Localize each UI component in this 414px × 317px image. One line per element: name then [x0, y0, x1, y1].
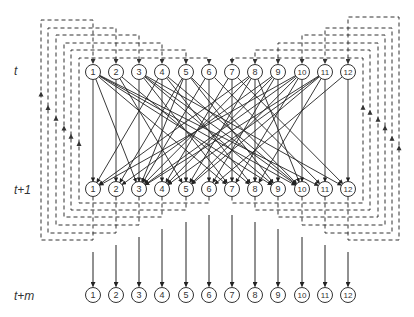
node-tm-6: 6: [202, 288, 217, 303]
up-arrow-icon: [397, 145, 402, 150]
edge-11-to-4: [168, 76, 319, 184]
node-t-8: 8: [248, 65, 263, 80]
node-tm-4: 4: [155, 288, 170, 303]
node-label: 6: [206, 67, 211, 77]
node-t-11: 11: [318, 65, 333, 80]
node-t1-8: 8: [248, 182, 263, 197]
node-label: 11: [321, 68, 330, 77]
feedback-loop-node-11: [325, 28, 392, 233]
node-label: 12: [344, 185, 353, 194]
edge-4-to-8: [167, 78, 251, 183]
edge-3-to-7: [144, 78, 228, 183]
node-t1-11: 11: [318, 182, 333, 197]
up-arrow-icon: [62, 126, 67, 131]
node-t-3: 3: [132, 65, 147, 80]
node-t1-2: 2: [109, 182, 124, 197]
node-label: 5: [183, 184, 188, 194]
up-arrow-icon: [383, 125, 388, 130]
node-label: 3: [136, 184, 141, 194]
transition-edges: [93, 75, 348, 185]
node-label: 8: [252, 290, 257, 300]
node-label: 3: [136, 67, 141, 77]
node-label: 8: [252, 184, 257, 194]
up-arrow-icon: [361, 105, 366, 110]
node-t1-6: 6: [202, 182, 217, 197]
up-arrow-icon: [376, 117, 381, 122]
node-label: 1: [90, 67, 95, 77]
node-tm-11: 11: [318, 288, 333, 303]
node-t-4: 4: [155, 65, 170, 80]
node-t1-7: 7: [225, 182, 240, 197]
node-label: 5: [183, 67, 188, 77]
node-t-5: 5: [179, 65, 194, 80]
node-label: 2: [113, 184, 118, 194]
node-t1-3: 3: [132, 182, 147, 197]
node-t-1: 1: [86, 65, 101, 80]
node-label: 10: [298, 68, 307, 77]
node-tm-12: 12: [341, 288, 356, 303]
node-t1-10: 10: [295, 182, 310, 197]
node-label: 6: [206, 184, 211, 194]
feedback-loop-node-3: [56, 35, 139, 225]
node-label: 4: [159, 67, 164, 77]
node-label: 12: [344, 291, 353, 300]
node-t1-5: 5: [179, 182, 194, 197]
up-arrow-icon: [54, 116, 59, 121]
node-t-9: 9: [271, 65, 286, 80]
node-tm-8: 8: [248, 288, 263, 303]
up-arrow-icon: [390, 136, 395, 141]
node-label: 3: [136, 290, 141, 300]
node-label: 5: [183, 290, 188, 300]
up-arrow-icon: [39, 92, 44, 97]
node-label: 12: [344, 68, 353, 77]
node-label: 4: [159, 184, 164, 194]
edge-11-to-5: [192, 77, 320, 184]
row-label-t: t: [14, 64, 17, 78]
node-label: 10: [298, 291, 307, 300]
up-arrow-icon: [77, 141, 82, 146]
feedback-loop-node-10: [302, 35, 385, 225]
up-arrow-icon: [368, 110, 373, 115]
node-label: 11: [321, 185, 330, 194]
node-label: 2: [113, 290, 118, 300]
node-label: 9: [275, 184, 280, 194]
node-tm-2: 2: [109, 288, 124, 303]
node-tm-3: 3: [132, 288, 147, 303]
node-label: 6: [206, 290, 211, 300]
node-t1-12: 12: [341, 182, 356, 197]
node-t1-4: 4: [155, 182, 170, 197]
bipartite-feedback-diagram: 1234567891011121234567891011121234567891…: [0, 0, 414, 317]
node-tm-7: 7: [225, 288, 240, 303]
node-tm-9: 9: [271, 288, 286, 303]
up-arrow-icon: [46, 105, 51, 110]
t1-to-tm-arrows: [93, 215, 348, 287]
up-arrow-icon: [69, 134, 74, 139]
node-t-7: 7: [225, 65, 240, 80]
feedback-loop-node-1: [41, 20, 93, 240]
edge-10-to-7: [236, 78, 298, 182]
node-label: 1: [90, 290, 95, 300]
node-t-2: 2: [109, 65, 124, 80]
node-label: 10: [298, 185, 307, 194]
node-tm-10: 10: [295, 288, 310, 303]
row-label-t-plus-m: t+m: [14, 289, 34, 303]
node-tm-5: 5: [179, 288, 194, 303]
node-label: 7: [229, 184, 234, 194]
node-t-12: 12: [341, 65, 356, 80]
row-label-t-plus-1: t+1: [14, 183, 31, 197]
node-t-10: 10: [295, 65, 310, 80]
feedback-loop-node-2: [48, 28, 116, 233]
node-label: 11: [321, 291, 330, 300]
node-t1-9: 9: [271, 182, 286, 197]
node-tm-1: 1: [86, 288, 101, 303]
node-label: 9: [275, 290, 280, 300]
edge-5-to-3: [142, 79, 183, 182]
node-label: 8: [252, 67, 257, 77]
node-label: 9: [275, 67, 280, 77]
node-label: 1: [90, 184, 95, 194]
node-t-6: 6: [202, 65, 217, 80]
node-t1-1: 1: [86, 182, 101, 197]
node-label: 7: [229, 67, 234, 77]
node-label: 7: [229, 290, 234, 300]
node-label: 2: [113, 67, 118, 77]
